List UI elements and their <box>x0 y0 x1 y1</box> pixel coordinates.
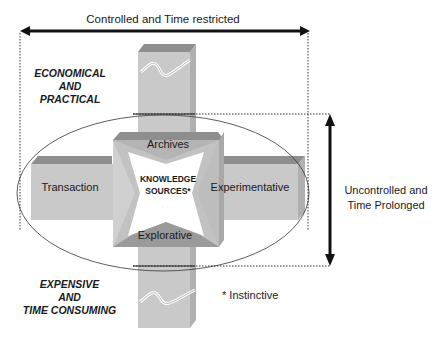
vertical-double-arrow <box>325 114 335 266</box>
horizontal-double-arrow <box>20 26 310 36</box>
economical-practical-label: ECONOMICAL AND PRACTICAL <box>20 67 120 106</box>
arm-experimentative: Experimentative <box>205 181 295 193</box>
label-line: ECONOMICAL <box>20 67 120 80</box>
controlled-time-restricted-label: Controlled and Time restricted <box>0 13 326 25</box>
arm-explorative: Explorative <box>130 229 200 241</box>
label-line: KNOWLEDGE <box>128 173 208 185</box>
label-line: AND <box>20 80 120 93</box>
arm-transaction: Transaction <box>30 181 110 193</box>
knowledge-sources-label: KNOWLEDGE SOURCES* <box>128 173 208 197</box>
label-line: SOURCES* <box>128 185 208 197</box>
label-line: Uncontrolled and <box>336 183 436 198</box>
label-line: AND <box>12 291 127 304</box>
expensive-time-consuming-label: EXPENSIVE AND TIME CONSUMING <box>12 278 127 317</box>
label-line: PRACTICAL <box>20 93 120 106</box>
label-line: TIME CONSUMING <box>12 304 127 317</box>
footnote-instinctive: * Instinctive <box>222 289 302 301</box>
uncontrolled-time-prolonged-label: Uncontrolled and Time Prolonged <box>336 183 436 213</box>
label-line: EXPENSIVE <box>12 278 127 291</box>
arm-archives: Archives <box>140 138 196 150</box>
label-line: Time Prolonged <box>336 198 436 213</box>
